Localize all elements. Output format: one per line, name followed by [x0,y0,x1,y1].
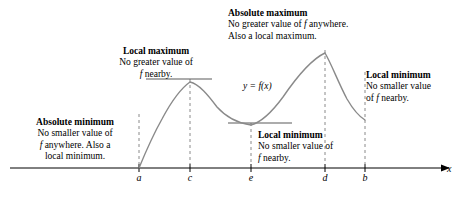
annotation-absolute-minimum-line-1: No smaller value of [14,128,136,139]
annotation-absolute-maximum: Absolute maximum No greater value of f a… [228,8,388,42]
annotation-absolute-minimum-line-3: local minimum. [14,151,136,162]
annotation-absolute-maximum-title: Absolute maximum [228,8,388,19]
annotation-absolute-maximum-line-2: Also a local maximum. [228,31,388,42]
tick-label-d: d [318,172,332,183]
tick-label-e: e [244,172,258,183]
annotation-absolute-minimum-title: Absolute minimum [14,117,136,128]
tick-label-c: c [183,172,197,183]
annotation-absolute-maximum-line-1: No greater value of f anywhere. [228,19,388,30]
annotation-local-maximum-line-2: f nearby. [93,69,219,80]
annotation-local-minimum-right-line-1: No smaller value [366,81,458,92]
annotation-absolute-minimum-line-2: f anywhere. Also a [14,140,136,151]
axis-label-x: x [447,163,451,174]
annotation-local-maximum: Local maximum No greater value of f near… [93,46,219,80]
calculus-extrema-figure: a c e d b x y = f(x) Local maximum No gr… [0,0,460,199]
annotation-local-maximum-title: Local maximum [93,46,219,57]
x-axis [10,164,450,171]
annotation-local-minimum-line-2: f nearby. [258,153,362,164]
annotation-local-minimum: Local minimum No smaller value of f near… [258,130,362,164]
annotation-local-minimum-right-line-2: of f nearby. [366,93,458,104]
annotation-local-maximum-line-1: No greater value of [93,57,219,68]
tick-label-b: b [358,172,372,183]
annotation-local-minimum-right-title: Local minimum [366,70,458,81]
annotation-local-minimum-right: Local minimum No smaller value of f near… [366,70,458,104]
tick-label-a: a [132,172,146,183]
annotation-local-minimum-line-1: No smaller value of [258,141,362,152]
annotation-absolute-minimum: Absolute minimum No smaller value of f a… [14,117,136,163]
annotation-local-minimum-title: Local minimum [258,130,362,141]
curve-label: y = f(x) [243,81,272,91]
